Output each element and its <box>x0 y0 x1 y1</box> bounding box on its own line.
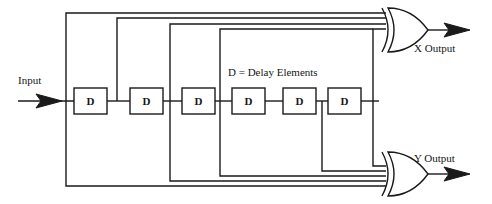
delay-element-d3[interactable]: D <box>182 88 215 114</box>
delay-element-d1-label: D <box>87 95 95 107</box>
delay-element-d5-label: D <box>296 95 304 107</box>
delay-element-d2[interactable]: D <box>130 88 163 114</box>
delay-element-d6-label: D <box>341 95 349 107</box>
input-label: Input <box>18 74 41 86</box>
y-output-label: Y Output <box>414 152 455 164</box>
delay-element-d4[interactable]: D <box>232 88 265 114</box>
lfsr-diagram: Input D D D D D <box>0 0 492 204</box>
delay-element-d5[interactable]: D <box>283 88 316 114</box>
delay-element-d3-label: D <box>195 95 203 107</box>
xor-y-back-arc <box>382 152 388 196</box>
delay-element-d1[interactable]: D <box>74 88 107 114</box>
delay-element-d2-label: D <box>143 95 151 107</box>
top-rail-4 <box>373 29 386 101</box>
x-output-label: X Output <box>414 42 455 54</box>
diagram-canvas: Input D D D D D <box>0 0 492 204</box>
delay-element-d6[interactable]: D <box>328 88 361 114</box>
legend-note: D = Delay Elements <box>228 66 318 78</box>
delay-element-d4-label: D <box>245 95 253 107</box>
xor-x-back-arc <box>382 8 388 52</box>
